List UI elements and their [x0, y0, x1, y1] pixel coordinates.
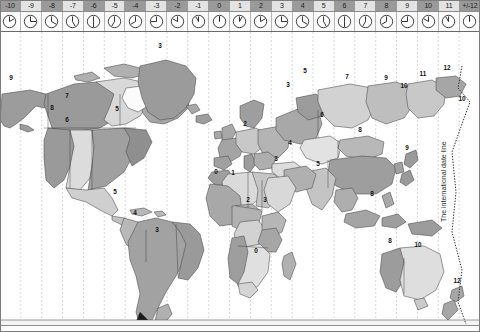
- clock-face[interactable]: [355, 12, 376, 31]
- timezone-number: 8: [388, 237, 392, 244]
- timezone-label[interactable]: -6: [84, 1, 105, 11]
- timezone-number: 8: [358, 126, 362, 133]
- timezone-label-strip: -10-9-8-7-6-5-4-3-2-101234567891011+/-12: [0, 0, 480, 11]
- clock-face[interactable]: [0, 12, 21, 31]
- clock-face[interactable]: [293, 12, 314, 31]
- timezone-number: 9: [405, 144, 409, 151]
- timezone-number: 3: [286, 81, 290, 88]
- timezone-label[interactable]: +/-12: [460, 1, 480, 11]
- landmasses: [0, 60, 480, 326]
- clock-face[interactable]: [397, 12, 418, 31]
- timezone-number: 2: [246, 196, 250, 203]
- timezone-label[interactable]: -7: [63, 1, 84, 11]
- clock-face[interactable]: [84, 12, 105, 31]
- clock-strip: [0, 11, 480, 32]
- timezone-number: 0: [254, 247, 258, 254]
- clock-face[interactable]: [21, 12, 42, 31]
- timezone-number: 5: [316, 160, 320, 167]
- timezone-label[interactable]: -4: [125, 1, 146, 11]
- timezone-number: 3: [274, 155, 278, 162]
- timezone-number: 6: [65, 116, 69, 123]
- timezone-label[interactable]: 2: [251, 1, 272, 11]
- timezone-label[interactable]: -1: [188, 1, 209, 11]
- world-timezone-map: -10-9-8-7-6-5-4-3-2-101234567891011+/-12: [0, 0, 480, 332]
- timezone-label[interactable]: -9: [21, 1, 42, 11]
- timezone-label[interactable]: 9: [397, 1, 418, 11]
- clock-face[interactable]: [314, 12, 335, 31]
- timezone-label[interactable]: -3: [146, 1, 167, 11]
- timezone-number: 12: [443, 64, 451, 71]
- clock-face[interactable]: [376, 12, 397, 31]
- timezone-label[interactable]: 5: [314, 1, 335, 11]
- timezone-number: 5: [303, 67, 307, 74]
- timezone-number: 5: [113, 188, 117, 195]
- clock-face[interactable]: [105, 12, 126, 31]
- timezone-number: 3: [158, 42, 162, 49]
- timezone-label[interactable]: 8: [376, 1, 397, 11]
- clock-face[interactable]: [230, 12, 251, 31]
- timezone-number: 12: [453, 277, 461, 284]
- clock-face[interactable]: [460, 12, 480, 31]
- timezone-label[interactable]: 1: [230, 1, 251, 11]
- timezone-label[interactable]: -10: [0, 1, 21, 11]
- map-canvas: The international date line 987653543102…: [0, 32, 480, 326]
- timezone-label[interactable]: -2: [167, 1, 188, 11]
- timezone-number: 2: [243, 120, 247, 127]
- clock-face[interactable]: [418, 12, 439, 31]
- timezone-number: 10: [414, 241, 422, 248]
- timezone-number: 7: [345, 73, 349, 80]
- timezone-number: 9: [384, 74, 388, 81]
- timezone-number: 7: [65, 92, 69, 99]
- timezone-number: 1: [231, 169, 235, 176]
- timezone-label[interactable]: 6: [335, 1, 356, 11]
- timezone-number: 4: [288, 139, 292, 146]
- date-line-caption: The international date line: [440, 141, 447, 222]
- clock-face[interactable]: [188, 12, 209, 31]
- timezone-label[interactable]: 7: [355, 1, 376, 11]
- timezone-label[interactable]: -5: [105, 1, 126, 11]
- timezone-number: 8: [370, 190, 374, 197]
- timezone-label[interactable]: -8: [42, 1, 63, 11]
- clock-face[interactable]: [439, 12, 460, 31]
- timezone-number: 0: [214, 168, 218, 175]
- clock-face[interactable]: [335, 12, 356, 31]
- timezone-number: 8: [50, 104, 54, 111]
- clock-face[interactable]: [125, 12, 146, 31]
- timezone-header: -10-9-8-7-6-5-4-3-2-101234567891011+/-12: [0, 0, 480, 32]
- timezone-number: 10: [458, 95, 466, 102]
- timezone-number: 3: [263, 196, 267, 203]
- international-date-line: The international date line: [440, 66, 470, 324]
- clock-face[interactable]: [42, 12, 63, 31]
- timezone-label[interactable]: 3: [272, 1, 293, 11]
- timezone-number: 11: [420, 70, 427, 77]
- timezone-label[interactable]: 10: [418, 1, 439, 11]
- timezone-label[interactable]: 4: [293, 1, 314, 11]
- clock-face[interactable]: [209, 12, 230, 31]
- timezone-number: 10: [400, 82, 408, 89]
- clock-face[interactable]: [146, 12, 167, 31]
- timezone-number: 4: [133, 209, 137, 216]
- clock-face[interactable]: [272, 12, 293, 31]
- timezone-label[interactable]: 0: [209, 1, 230, 11]
- timezone-number: 3: [155, 226, 159, 233]
- timezone-label[interactable]: 11: [439, 1, 460, 11]
- clock-face[interactable]: [167, 12, 188, 31]
- clock-face[interactable]: [251, 12, 272, 31]
- timezone-number: 9: [9, 74, 13, 81]
- clock-face[interactable]: [63, 12, 84, 31]
- timezone-number: 6: [320, 111, 324, 118]
- timezone-number: 5: [115, 105, 119, 112]
